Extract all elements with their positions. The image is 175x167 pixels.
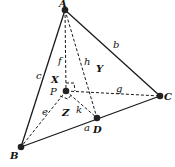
label-h: h xyxy=(84,56,90,67)
label-b: b xyxy=(113,39,119,50)
label-face-Z: Z xyxy=(61,107,70,118)
label-D: D xyxy=(92,124,102,135)
tetrahedron-diagram: A B C D P a b c e f g h k X Y Z xyxy=(0,0,175,167)
label-A: A xyxy=(58,0,67,9)
point-C xyxy=(157,93,164,100)
label-c: c xyxy=(36,70,42,81)
label-g: g xyxy=(116,83,122,94)
label-B: B xyxy=(9,150,18,161)
label-f: f xyxy=(57,55,64,66)
label-a: a xyxy=(84,122,90,133)
label-face-Y: Y xyxy=(96,63,104,74)
label-k: k xyxy=(76,104,82,115)
edge-AC xyxy=(65,10,160,96)
label-P: P xyxy=(49,86,57,97)
diagram-canvas: A B C D P a b c e f g h k X Y Z xyxy=(0,0,175,167)
point-B xyxy=(18,144,25,151)
label-face-X: X xyxy=(50,74,60,85)
label-e: e xyxy=(42,106,48,117)
point-P xyxy=(63,88,70,95)
edge-PC xyxy=(66,91,160,96)
edge-AP xyxy=(65,10,66,91)
label-C: C xyxy=(164,91,172,102)
edge-BC xyxy=(21,96,160,147)
point-D xyxy=(94,115,101,122)
edge-AD xyxy=(65,10,97,118)
